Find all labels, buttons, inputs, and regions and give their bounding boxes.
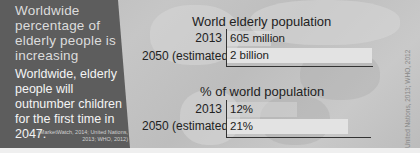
chart-title: % of world population <box>200 84 324 99</box>
row-label-2013: 2013 <box>142 102 222 116</box>
panel-source: (MarketWatch, 2014; United Nations, 2013… <box>33 129 128 143</box>
bar-value-2013: 12% <box>230 102 253 117</box>
image-credit: United Nations, 2013; WHO, 2012 <box>404 50 411 148</box>
bar-value-2013: 605 million <box>230 31 285 46</box>
row-label-2050: 2050 (estimated) <box>142 49 222 63</box>
bar-value-2050: 2 billion <box>230 48 269 63</box>
bar-value-2050: 21% <box>230 119 253 134</box>
info-panel: Worldwide percentage of elderly people i… <box>0 0 132 148</box>
x-axis <box>226 137 371 138</box>
row-label-2050: 2050 (estimated) <box>142 119 222 133</box>
panel-headline: Worldwide percentage of elderly people i… <box>15 3 125 63</box>
x-axis <box>226 66 373 67</box>
row-label-2013: 2013 <box>142 31 222 45</box>
infographic-background: Worldwide percentage of elderly people i… <box>0 0 420 148</box>
bottom-margin <box>0 148 420 153</box>
chart-title: World elderly population <box>192 14 331 29</box>
